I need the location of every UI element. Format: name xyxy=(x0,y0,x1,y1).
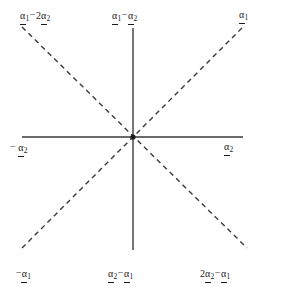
alpha-vector-symbol: α xyxy=(128,11,133,21)
ray-label-south: α2−α1 xyxy=(108,268,133,281)
labels-layer: α1−2α2 α1−α2 α1 −α2 α2 −α1 α2−α1 2α2−α1 xyxy=(0,0,281,294)
subscript-index: 1 xyxy=(244,14,248,22)
under-tilde-mark xyxy=(112,24,118,25)
under-tilde-mark xyxy=(128,24,134,25)
ray-label-south-west: −α1 xyxy=(16,268,31,281)
subscript-index: 2 xyxy=(229,146,233,154)
alpha-glyph: α xyxy=(205,269,210,279)
alpha-glyph: α xyxy=(18,143,23,153)
alpha-vector-symbol: α xyxy=(18,143,23,153)
alpha-glyph: α xyxy=(112,11,117,21)
ray-label-west: −α2 xyxy=(10,142,27,155)
root-system-diagram: α1−2α2 α1−α2 α1 −α2 α2 −α1 α2−α1 2α2−α1 xyxy=(0,0,281,294)
alpha-vector-symbol: α xyxy=(20,11,25,21)
alpha-vector-symbol: α xyxy=(22,269,27,279)
under-tilde-mark xyxy=(205,282,211,283)
alpha-glyph: α xyxy=(20,11,25,21)
minus-operator: − xyxy=(214,268,221,278)
alpha-vector-symbol: α xyxy=(224,142,229,152)
subscript-index: 2 xyxy=(23,147,27,155)
minus-sign: − xyxy=(10,142,18,152)
alpha-vector-symbol: α xyxy=(41,11,46,21)
subscript-index: 2 xyxy=(46,15,50,23)
alpha-vector-symbol: α xyxy=(205,269,210,279)
alpha-glyph: α xyxy=(221,269,226,279)
subscript-index: 1 xyxy=(226,273,230,281)
under-tilde-mark xyxy=(18,156,24,157)
alpha-glyph: α xyxy=(22,269,27,279)
alpha-vector-symbol: α xyxy=(124,269,129,279)
under-tilde-mark xyxy=(108,282,114,283)
alpha-vector-symbol: α xyxy=(108,269,113,279)
under-tilde-mark xyxy=(224,155,230,156)
under-tilde-mark xyxy=(20,24,26,25)
alpha-vector-symbol: α xyxy=(239,10,244,20)
alpha-glyph: α xyxy=(239,10,244,20)
minus-operator: − xyxy=(29,10,36,20)
ray-label-north: α1−α2 xyxy=(112,10,137,23)
subscript-index: 2 xyxy=(133,15,137,23)
alpha-glyph: α xyxy=(224,142,229,152)
under-tilde-mark xyxy=(21,282,27,283)
alpha-glyph: α xyxy=(41,11,46,21)
subscript-index: 1 xyxy=(129,273,133,281)
under-tilde-mark xyxy=(41,24,47,25)
ray-label-east: α2 xyxy=(224,142,233,154)
subscript-index: 1 xyxy=(27,273,31,281)
under-tilde-mark xyxy=(124,282,130,283)
ray-label-south-east: 2α2−α1 xyxy=(200,268,230,281)
ray-label-north-west: α1−2α2 xyxy=(20,10,50,23)
alpha-glyph: α xyxy=(124,269,129,279)
minus-operator: − xyxy=(117,268,124,278)
ray-label-north-east: α1 xyxy=(239,10,248,22)
alpha-glyph: α xyxy=(108,269,113,279)
minus-operator: − xyxy=(121,10,128,20)
alpha-vector-symbol: α xyxy=(221,269,226,279)
alpha-glyph: α xyxy=(128,11,133,21)
under-tilde-mark xyxy=(239,23,245,24)
under-tilde-mark xyxy=(221,282,227,283)
alpha-vector-symbol: α xyxy=(112,11,117,21)
